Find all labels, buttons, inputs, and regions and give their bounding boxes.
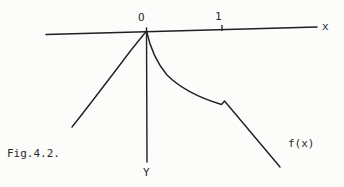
x-axis-label: x (322, 21, 329, 32)
curve-left-branch (72, 31, 147, 127)
curve-right-branch (147, 31, 281, 167)
origin-label: O (138, 12, 145, 23)
figure-caption: Fig.4.2. (7, 148, 60, 159)
curve-label: f(x) (288, 138, 315, 149)
figure-container: O 1 x Y f(x) Fig.4.2. (0, 0, 344, 187)
x-axis-unit-label: 1 (215, 11, 222, 22)
y-axis-line (147, 28, 148, 162)
x-axis-line (46, 27, 317, 35)
y-axis-label: Y (143, 167, 150, 178)
